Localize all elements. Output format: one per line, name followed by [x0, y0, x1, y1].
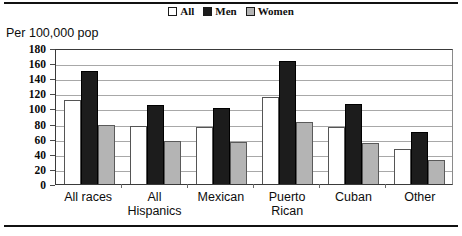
x-axis-label: All races	[55, 190, 121, 218]
bar-all	[328, 127, 345, 184]
y-tick-label: 0	[40, 179, 46, 191]
top-divider-rule	[4, 2, 458, 4]
x-axis-label-line1: Cuban	[335, 190, 372, 204]
bar-women	[296, 122, 313, 184]
x-tick-mark	[319, 184, 320, 188]
bar-chart-figure: AllMenWomen Per 100,000 pop 180160140120…	[0, 0, 462, 236]
bar-women	[98, 125, 115, 184]
legend-entry-men: Men	[203, 6, 236, 17]
x-axis-label-line1: Puerto	[269, 190, 306, 204]
y-tick-mark	[50, 185, 55, 186]
bar-men	[279, 61, 296, 184]
y-tick-label: 20	[35, 164, 47, 176]
bar-women	[428, 160, 445, 184]
bar-men	[147, 105, 164, 184]
x-tick-mark	[121, 184, 122, 188]
bar-men	[411, 132, 428, 184]
bar-men	[213, 108, 230, 184]
bar-men	[81, 71, 98, 184]
x-axis-label: AllHispanics	[121, 190, 187, 218]
x-axis-label-line2: Hispanics	[121, 204, 187, 218]
y-tick-label: 180	[29, 43, 46, 55]
y-tick-label: 120	[29, 88, 46, 100]
bar-group	[254, 50, 320, 184]
y-tick-label: 160	[29, 58, 46, 70]
bar-women	[164, 141, 181, 184]
x-axis-label: Mexican	[188, 190, 254, 218]
legend-swatch-men-icon	[203, 7, 212, 16]
y-tick-label: 140	[29, 73, 46, 85]
x-axis-label-line2: Rican	[254, 204, 320, 218]
legend-entry-women: Women	[246, 6, 294, 17]
legend-swatch-women-icon	[246, 7, 255, 16]
y-tick-label: 60	[35, 134, 47, 146]
legend-swatch-all-icon	[168, 7, 177, 16]
bar-all	[130, 126, 147, 184]
x-axis-label: Other	[387, 190, 453, 218]
x-axis-label-line1: Mexican	[198, 190, 245, 204]
y-tick-label: 40	[35, 149, 47, 161]
chart-legend: AllMenWomen	[0, 6, 462, 17]
y-axis-title: Per 100,000 pop	[6, 26, 98, 40]
legend-label: Men	[215, 6, 236, 17]
bar-group	[188, 50, 254, 184]
y-tick-label: 80	[35, 119, 47, 131]
bar-group	[386, 50, 452, 184]
bar-all	[394, 149, 411, 184]
x-axis-label: Cuban	[320, 190, 386, 218]
bar-all	[64, 100, 81, 184]
legend-label: Women	[258, 6, 294, 17]
y-tick-label: 100	[29, 103, 46, 115]
bar-men	[345, 104, 362, 184]
bar-women	[362, 143, 379, 184]
x-axis-label-line1: All	[148, 190, 162, 204]
legend-label: All	[180, 6, 194, 17]
y-axis: 180160140120100806040200	[0, 49, 55, 185]
x-tick-mark	[385, 184, 386, 188]
bar-group	[320, 50, 386, 184]
bar-group	[122, 50, 188, 184]
bar-groups	[56, 50, 452, 184]
legend-entry-all: All	[168, 6, 194, 17]
x-axis-label-line1: Other	[404, 190, 435, 204]
bottom-divider-rule	[4, 225, 458, 227]
x-axis-labels: All racesAllHispanicsMexicanPuertoRicanC…	[55, 190, 453, 218]
bar-women	[230, 142, 247, 184]
x-axis-label-line1: All races	[64, 190, 112, 204]
x-tick-mark	[187, 184, 188, 188]
x-axis-label: PuertoRican	[254, 190, 320, 218]
bar-all	[196, 127, 213, 184]
bar-group	[56, 50, 122, 184]
bar-all	[262, 97, 279, 184]
plot-area	[55, 49, 453, 185]
x-tick-mark	[253, 184, 254, 188]
